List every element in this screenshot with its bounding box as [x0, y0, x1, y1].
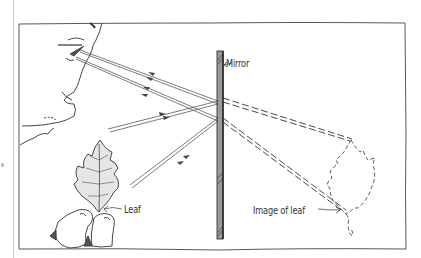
image-label-pointer	[318, 207, 340, 213]
leaf-label-pointer	[104, 206, 122, 212]
leaf-icon	[74, 140, 119, 212]
reflected-rays	[76, 50, 218, 121]
image-of-leaf-label: Image of leaf	[253, 205, 305, 216]
mirror-icon	[217, 51, 223, 239]
virtual-rays	[223, 98, 352, 212]
reflection-diagram	[0, 0, 421, 258]
leaf-label: Leaf	[124, 204, 141, 215]
leaf-image-icon	[327, 140, 375, 236]
mirror-label: Mirror	[226, 58, 249, 69]
face-profile-icon	[20, 23, 102, 145]
hand-icon	[50, 210, 114, 249]
